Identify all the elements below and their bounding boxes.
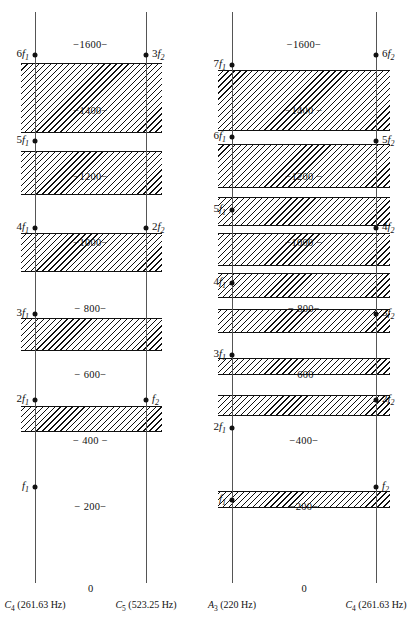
- frequency-axis-left: [35, 12, 36, 583]
- harmonic-label: 5f2: [382, 134, 395, 148]
- harmonic-label: 6f1: [16, 48, 29, 62]
- harmonic-label: 4f1: [213, 276, 226, 290]
- harmonic-dot: [144, 225, 149, 230]
- harmonic-label: 6f2: [382, 48, 395, 62]
- critical-band: [218, 273, 390, 298]
- frequency-tick-label: − 800−: [288, 304, 320, 315]
- frequency-tick-label: − 800−: [74, 304, 106, 315]
- harmonic-label: 2f2: [152, 221, 165, 235]
- frequency-tick-label: −1600−: [287, 40, 322, 51]
- harmonic-dot: [374, 311, 379, 316]
- frequency-tick-label: −1400 −: [285, 106, 323, 117]
- zero-label: 0: [88, 583, 93, 594]
- critical-band: [21, 406, 162, 432]
- harmonic-dot: [33, 484, 38, 489]
- critical-band: [218, 395, 390, 416]
- harmonic-label: 2f1: [16, 393, 29, 407]
- frequency-tick-label: − 200−: [74, 502, 106, 513]
- harmonic-label: 3f2: [382, 307, 395, 321]
- harmonic-dot: [374, 398, 379, 403]
- frequency-tick-label: −1200 −: [285, 172, 323, 183]
- axis-note-label-right: C4 (261.63 Hz): [345, 600, 406, 613]
- harmonic-dot: [33, 52, 38, 57]
- harmonic-label: 2f1: [213, 421, 226, 435]
- harmonic-dot: [230, 280, 235, 285]
- harmonic-dot: [33, 311, 38, 316]
- harmonic-dot: [33, 225, 38, 230]
- frequency-tick-label: − 400 −: [73, 436, 108, 447]
- harmonic-dot: [374, 484, 379, 489]
- frequency-tick-label: −200−: [289, 502, 318, 513]
- axis-note-label-left: C4 (261.63 Hz): [4, 600, 65, 613]
- frequency-tick-label: −1000−: [73, 238, 108, 249]
- harmonic-dot: [230, 353, 235, 358]
- frequency-tick-label: −1400−: [73, 106, 108, 117]
- harmonic-label: 3f1: [213, 348, 226, 362]
- harmonic-dot: [230, 135, 235, 140]
- harmonic-label: 2f2: [382, 393, 395, 407]
- harmonic-dot: [230, 62, 235, 67]
- harmonic-dot: [374, 225, 379, 230]
- harmonic-label: f2: [152, 393, 159, 407]
- harmonic-label: 5f1: [213, 203, 226, 217]
- frequency-tick-label: −1200−: [73, 172, 108, 183]
- panel-octave-c4-c5: f12f13f14f15f16f1C4 (261.63 Hz)f22f23f2C…: [0, 0, 198, 621]
- harmonic-label: 7f1: [213, 58, 226, 72]
- harmonic-dot: [230, 208, 235, 213]
- harmonic-label: f1: [219, 493, 226, 507]
- harmonic-label: 4f1: [16, 221, 29, 235]
- frequency-tick-label: − 600−: [74, 370, 106, 381]
- frequency-axis-right: [146, 12, 147, 583]
- critical-band: [218, 70, 390, 131]
- harmonic-label: 6f1: [213, 130, 226, 144]
- harmonic-dot: [144, 52, 149, 57]
- harmonic-label: f2: [382, 480, 389, 494]
- harmonic-dot: [33, 139, 38, 144]
- axis-note-label-right: C5 (523.25 Hz): [115, 600, 176, 613]
- harmonic-dot: [33, 398, 38, 403]
- harmonic-label: 4f2: [382, 221, 395, 235]
- harmonic-label: 3f1: [16, 307, 29, 321]
- frequency-tick-label: − 600−: [288, 370, 320, 381]
- harmonic-dot: [374, 52, 379, 57]
- harmonic-label: 3f2: [152, 48, 165, 62]
- harmonic-label: 5f1: [16, 134, 29, 148]
- panel-minor-third-a3-c4: f12f13f14f15f16f17f1A3 (220 Hz)f22f23f24…: [198, 0, 395, 621]
- zero-label: 0: [301, 583, 306, 594]
- axis-note-label-left: A3 (220 Hz): [208, 600, 256, 613]
- critical-band: [218, 197, 390, 226]
- harmonic-dot: [374, 139, 379, 144]
- harmonic-dot: [230, 498, 235, 503]
- harmonic-dot: [230, 425, 235, 430]
- critical-band: [21, 318, 162, 351]
- frequency-tick-label: −1000 −: [285, 238, 323, 249]
- critical-band: [21, 63, 162, 133]
- frequency-axis-right: [376, 12, 377, 583]
- plot-area-right: f12f13f14f15f16f17f1A3 (220 Hz)f22f23f24…: [198, 0, 395, 621]
- frequency-tick-label: −1600−: [73, 40, 108, 51]
- plot-area-left: f12f13f14f15f16f1C4 (261.63 Hz)f22f23f2C…: [0, 0, 198, 621]
- harmonic-dot: [144, 398, 149, 403]
- harmonic-label: f1: [22, 480, 29, 494]
- frequency-tick-label: −400−: [289, 436, 318, 447]
